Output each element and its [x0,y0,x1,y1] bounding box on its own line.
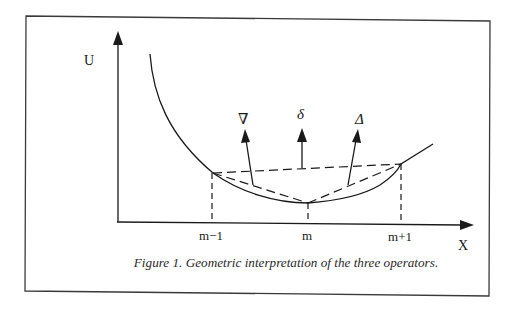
tick-label-m: m [302,228,312,243]
chord-central [213,164,401,173]
forward-operator-arrow [348,140,356,185]
y-axis-arrow-icon [113,31,123,45]
central-operator-symbol: δ [297,106,305,122]
chord-backward [213,173,308,203]
tick-label-m-minus-1: m−1 [199,228,223,243]
chord-forward [308,164,401,203]
figure-border [25,16,490,296]
x-axis [117,222,462,225]
x-axis-arrow-icon [460,220,474,230]
backward-operator-symbol: ∇ [238,111,248,127]
figure: U X ∇ δ Δ m−1 m m+1 Figure 1. Geometric … [0,0,514,311]
forward-arrowhead-icon [352,129,361,143]
diagram-canvas: U X ∇ δ Δ m−1 m m+1 Figure 1. Geometric … [0,0,514,311]
central-arrowhead-icon [297,128,307,142]
backward-arrowhead-icon [241,129,250,143]
x-axis-label: X [458,238,468,253]
tick-label-m-plus-1: m+1 [388,229,412,244]
function-curve [150,54,433,203]
y-axis-label: U [84,53,94,68]
backward-operator-arrow [246,140,253,185]
forward-operator-symbol: Δ [354,111,364,127]
figure-caption: Figure 1. Geometric interpretation of th… [133,255,438,270]
